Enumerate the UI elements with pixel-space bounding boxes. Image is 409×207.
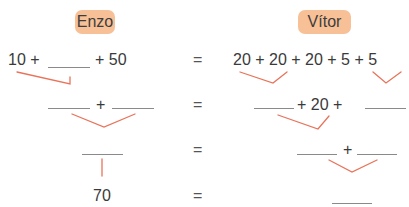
connector-vitor-row2	[278, 115, 329, 129]
connector-vitor-row1-left	[240, 72, 287, 83]
connector-enzo-row2	[72, 114, 135, 127]
connector-enzo-row1	[17, 72, 70, 84]
connector-lines	[0, 0, 409, 207]
connector-vitor-row3	[329, 160, 377, 172]
connector-vitor-row1-right	[373, 72, 401, 83]
